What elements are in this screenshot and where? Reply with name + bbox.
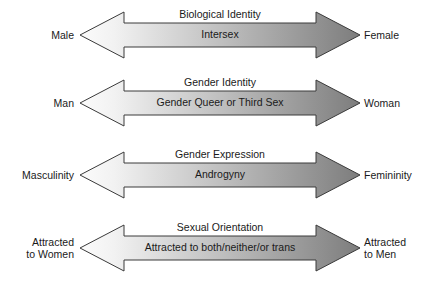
right-end-label: Woman [360,73,440,133]
spectrum-diagram: Male Biological Identity Intersex Female… [0,0,440,284]
arrow-polygon [80,12,360,58]
spectrum-row-gender-identity: Man Gender Identity Gender Queer or Thir… [0,73,440,133]
spectrum-row-sexual-orientation: Attracted to Women Sexual Orientation At… [0,218,440,278]
arrow-shape [78,73,362,133]
spectrum-row-gender-expression: Masculinity Gender Expression Androgyny … [0,145,440,205]
right-end-label: Female [360,5,440,65]
arrow-polygon [80,80,360,126]
left-end-label: Male [0,5,78,65]
arrow-shape [78,5,362,65]
spectrum-row-biological-identity: Male Biological Identity Intersex Female [0,5,440,65]
right-end-label: Attracted to Men [360,218,440,278]
right-end-label: Femininity [360,145,440,205]
double-headed-arrow [78,145,362,205]
left-end-label: Man [0,73,78,133]
arrow-shape [78,145,362,205]
arrow-polygon [80,225,360,271]
arrow-polygon [80,152,360,198]
left-end-label: Attracted to Women [0,218,78,278]
arrow-shape [78,218,362,278]
double-headed-arrow [78,5,362,65]
left-end-label: Masculinity [0,145,78,205]
double-headed-arrow [78,73,362,133]
double-headed-arrow [78,218,362,278]
